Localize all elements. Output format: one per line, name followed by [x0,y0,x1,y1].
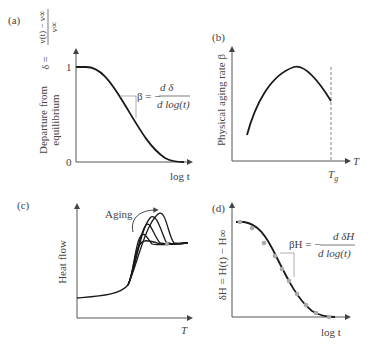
panel-b-ylabel: Physical aging rate β [215,54,227,146]
panel-a-slope-num: d δ [160,81,174,93]
panel-a-ytick-1: 1 [66,61,72,73]
panel-d-xlabel: log t [321,326,341,338]
panel-a-ylabel-2: equilibrium [49,94,61,146]
panel-d-slope-lhs: βH = − [289,238,320,250]
panel-d-slope-num: d δH [333,230,355,242]
panel-a-xlabel: log t [170,170,190,182]
panel-a-tag: (a) [8,14,21,27]
panel-a-formula-lhs: δ = [40,56,51,69]
panel-c-annotation: Aging [105,208,133,220]
panel-d: (d) log t δH = H(t) − H∞ βH = − d δH d l… [212,202,355,338]
panel-b-curve [247,67,331,135]
panel-d-ylabel: δH = H(t) − H∞ [216,230,229,301]
panel-a-slope-den: d log(t) [157,98,190,111]
panel-a-formula-num: v(t) − v∞ [37,10,47,44]
panel-d-curve [236,222,335,317]
panel-c-ylabel: Heat flow [56,240,68,284]
panel-b-xlabel: T [353,155,360,167]
panel-b: (b) T Tg Physical aging rate β [212,31,360,183]
panel-d-tag: (d) [212,202,225,215]
panel-b-tg-label: Tg [328,168,338,183]
panel-b-tag: (b) [212,31,225,44]
panel-a-ytick-0: 0 [66,156,72,168]
panel-c-tag: (c) [17,199,30,212]
panel-c: (c) T Heat flow Aging [17,199,190,336]
panel-a: (a) 1 0 log t Departure from equilibrium… [8,9,190,182]
panel-d-data-points [238,220,332,320]
panel-d-slope-marker [280,253,294,277]
panel-a-formula-den: v∞ [49,22,59,33]
panel-a-ylabel-1: Departure from [37,86,49,155]
panel-c-xlabel: T [181,324,188,336]
panel-d-slope-den: d log(t) [318,247,351,260]
